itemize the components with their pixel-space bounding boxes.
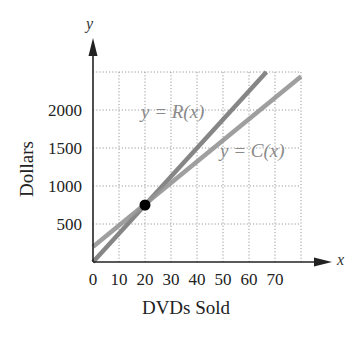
revenue-cost-chart: 010203040506070500100015002000 y = R(x) … bbox=[0, 0, 359, 337]
x-tick-label: 10 bbox=[111, 270, 128, 289]
y-tick-label: 1500 bbox=[48, 139, 82, 158]
y-tick-label: 500 bbox=[57, 215, 83, 234]
break-even-point bbox=[140, 200, 151, 211]
x-tick-label: 0 bbox=[89, 270, 98, 289]
y-tick-label: 1000 bbox=[48, 177, 82, 196]
x-tick-label: 40 bbox=[189, 270, 206, 289]
x-tick-label: 30 bbox=[163, 270, 180, 289]
x-axis-variable: x bbox=[336, 251, 344, 268]
annotation-points bbox=[140, 200, 151, 211]
series-label-revenue: y = R(x) bbox=[139, 101, 204, 123]
x-tick-label: 60 bbox=[241, 270, 258, 289]
x-tick-label: 20 bbox=[137, 270, 154, 289]
x-axis-title: DVDs Sold bbox=[142, 297, 231, 318]
tick-labels: 010203040506070500100015002000 bbox=[48, 101, 284, 289]
x-axis-arrow-icon bbox=[314, 258, 332, 267]
y-axis-arrow-icon bbox=[89, 38, 98, 56]
y-tick-label: 2000 bbox=[48, 101, 82, 120]
x-tick-label: 70 bbox=[267, 270, 284, 289]
y-axis-title: Dollars bbox=[16, 141, 37, 197]
y-axis-variable: y bbox=[84, 15, 94, 33]
series-label-cost: y = C(x) bbox=[218, 140, 285, 162]
x-tick-label: 50 bbox=[215, 270, 232, 289]
